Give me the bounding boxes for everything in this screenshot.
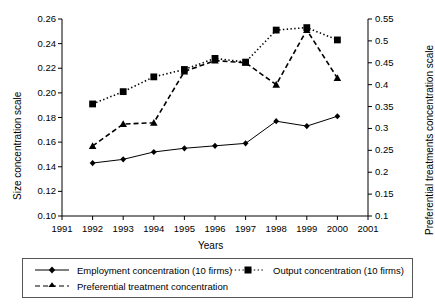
series-marker — [273, 27, 280, 34]
y2-axis-tick-label: 0.2 — [375, 167, 388, 177]
series-marker — [243, 140, 249, 146]
series-marker — [335, 113, 341, 119]
series-marker — [182, 145, 188, 151]
y-axis-tick-label: 0.12 — [30, 186, 56, 196]
x-axis-tick-label: 1993 — [109, 224, 137, 234]
series-marker — [151, 149, 157, 155]
y-axis-tick-label: 0.18 — [30, 113, 56, 123]
y2-axis-tick-label: 0.45 — [375, 58, 394, 68]
left-axis-title: Size concentration scale — [12, 92, 23, 200]
series-marker — [120, 88, 127, 95]
y2-axis-tick-label: 0.1 — [375, 211, 388, 221]
y-axis-tick-label: 0.14 — [30, 162, 56, 172]
y2-axis-tick-label: 0.3 — [375, 123, 388, 133]
x-axis-tick-label: 1997 — [232, 224, 260, 234]
right-axis-title: Preferential treatments concentration sc… — [424, 45, 435, 235]
legend-item-employment: Employment concentration (10 firms) — [77, 265, 232, 276]
series-marker — [212, 143, 218, 149]
series-line — [93, 28, 338, 104]
x-axis-tick-label: 1994 — [140, 224, 168, 234]
series-marker — [150, 73, 157, 80]
series-marker — [273, 118, 279, 124]
series-marker — [334, 37, 341, 44]
y2-axis-tick-label: 0.25 — [375, 145, 394, 155]
x-axis-tick-label: 1999 — [293, 224, 321, 234]
y2-axis-tick-label: 0.15 — [375, 189, 394, 199]
chart-legend: Employment concentration (10 firms) Outp… — [22, 258, 413, 298]
x-axis-tick-label: 2001 — [354, 224, 382, 234]
series-marker — [90, 160, 96, 166]
x-axis-title: Years — [198, 240, 223, 251]
x-axis-tick-label: 1992 — [79, 224, 107, 234]
y-axis-tick-label: 0.20 — [30, 88, 56, 98]
x-axis-tick-label: 1991 — [48, 224, 76, 234]
series-marker — [89, 101, 96, 108]
legend-item-preferential: Preferential treatment concentration — [77, 281, 228, 292]
y-axis-tick-label: 0.26 — [30, 14, 56, 24]
y2-axis-tick-label: 0.5 — [375, 36, 388, 46]
series-marker — [304, 123, 310, 129]
y-axis-tick-label: 0.10 — [30, 211, 56, 221]
x-axis-tick-label: 1995 — [170, 224, 198, 234]
y2-axis-tick-label: 0.4 — [375, 80, 388, 90]
legend-item-output: Output concentration (10 firms) — [273, 265, 404, 276]
y2-axis-tick-label: 0.55 — [375, 14, 394, 24]
x-axis-tick-label: 2000 — [323, 224, 351, 234]
y-axis-tick-label: 0.16 — [30, 137, 56, 147]
y-axis-tick-label: 0.24 — [30, 39, 56, 49]
x-axis-tick-label: 1996 — [201, 224, 229, 234]
chart-figure: Size concentration scale Preferential tr… — [0, 0, 435, 307]
series-line — [93, 30, 338, 146]
y2-axis-tick-label: 0.35 — [375, 102, 394, 112]
x-axis-tick-label: 1998 — [262, 224, 290, 234]
y-axis-tick-label: 0.22 — [30, 63, 56, 73]
series-marker — [120, 156, 126, 162]
